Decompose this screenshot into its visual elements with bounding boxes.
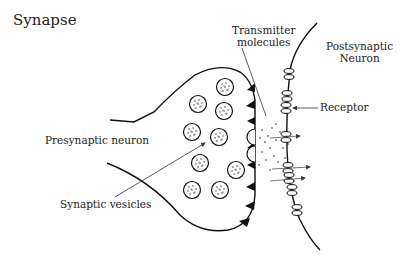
diagram-canvas	[0, 0, 407, 260]
receptor-label: Receptor	[320, 101, 369, 113]
synaptic-vesicles	[184, 79, 245, 199]
postsynaptic-label-line2: Neuron	[326, 52, 393, 64]
transmitter-label: Transmitter molecules	[232, 24, 295, 48]
vesicles-label: Synaptic vesicles	[60, 198, 151, 210]
postsynaptic-label-line1: Postsynaptic	[326, 40, 393, 52]
transmitter-label-line2: molecules	[232, 36, 295, 48]
postsynaptic-label: Postsynaptic Neuron	[326, 40, 393, 64]
presynaptic-label: Presynaptic neuron	[45, 134, 149, 146]
synapse-diagram: Synapse Transmitter molecules Postsynapt…	[0, 0, 407, 260]
receptors	[281, 69, 302, 216]
transmitter-label-line1: Transmitter	[232, 24, 295, 36]
diagram-title: Synapse	[13, 12, 77, 29]
